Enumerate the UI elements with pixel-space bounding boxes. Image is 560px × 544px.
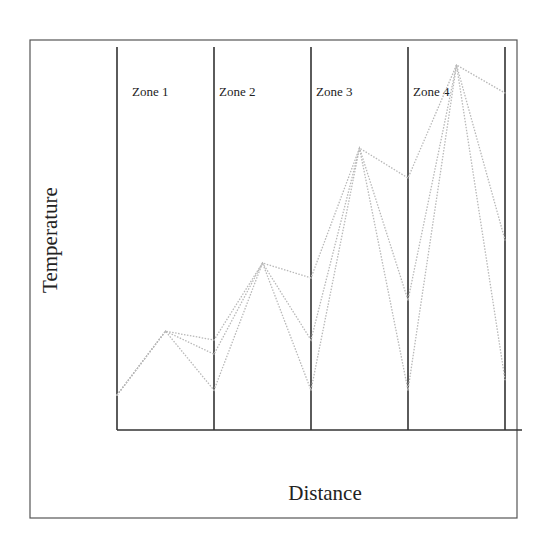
data-point-profile-lower-1 (165, 331, 166, 332)
data-point-profile-lower-5 (359, 148, 360, 149)
zone-label-4: Zone 4 (413, 84, 450, 99)
data-point-profile-upper-4 (310, 277, 311, 278)
data-point-profile-lower-0 (116, 395, 117, 396)
data-point-profile-lower-8 (504, 379, 505, 380)
x-axis-label: Distance (288, 481, 361, 505)
data-point-profile-upper-2 (213, 339, 214, 340)
data-point-profile-middle-4 (310, 339, 311, 340)
y-axis-label: Temperature (38, 187, 62, 293)
data-point-profile-lower-3 (262, 262, 263, 263)
zone-label-3: Zone 3 (316, 84, 352, 99)
zone-label-2: Zone 2 (219, 84, 255, 99)
data-point-profile-lower-6 (407, 390, 408, 391)
data-point-profile-upper-8 (504, 92, 505, 93)
data-point-profile-middle-2 (213, 354, 214, 355)
data-point-profile-lower-4 (310, 390, 311, 391)
data-point-profile-upper-6 (407, 177, 408, 178)
zone-dividers (117, 47, 505, 430)
zone-labels: Zone 1Zone 2Zone 3Zone 4 (132, 84, 450, 99)
chart-frame (30, 40, 517, 518)
data-point-profile-middle-6 (407, 300, 408, 301)
data-point-profile-lower-2 (213, 390, 214, 391)
chart: Zone 1Zone 2Zone 3Zone 4 Temperature Dis… (0, 0, 560, 544)
data-point-profile-lower-7 (456, 64, 457, 65)
zone-label-1: Zone 1 (132, 84, 168, 99)
data-point-profile-middle-8 (504, 239, 505, 240)
